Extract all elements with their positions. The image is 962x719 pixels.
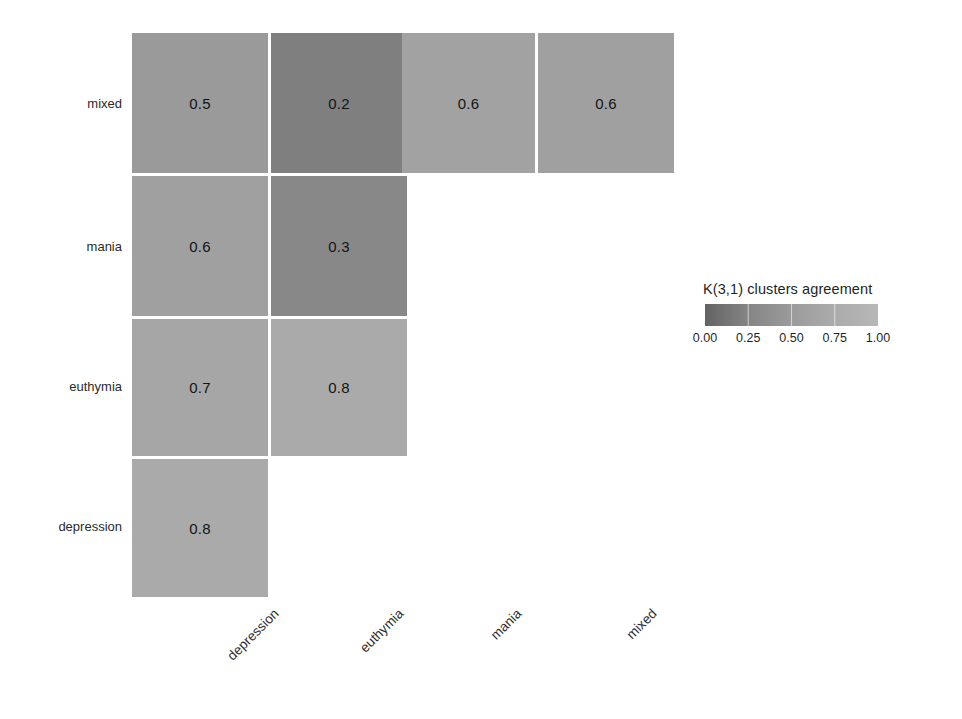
heatmap-cell: 0.2 — [271, 33, 407, 173]
y-axis-tick-depression: depression — [0, 519, 122, 534]
x-axis-tick-mixed: mixed — [624, 606, 660, 642]
legend-title: K(3,1) clusters agreement — [703, 281, 876, 297]
heatmap-cell-value: 0.6 — [189, 238, 210, 255]
x-axis-tick-label: mania — [488, 606, 525, 643]
legend: K(3,1) clusters agreement — [703, 281, 876, 347]
y-axis-tick-label: depression — [58, 519, 122, 534]
heatmap-cell-value: 0.5 — [189, 95, 210, 112]
heatmap-cell: 0.6 — [132, 176, 268, 316]
y-axis-tick-mania: mania — [0, 239, 122, 254]
y-axis-tick-label: euthymia — [69, 379, 122, 394]
heatmap-cell: 0.6 — [402, 33, 535, 173]
colorbar-tick-label: 0.50 — [779, 331, 803, 345]
y-axis-tick-euthymia: euthymia — [0, 379, 122, 394]
colorbar-tick-labels: 0.00 0.25 0.50 0.75 1.00 — [705, 331, 878, 347]
colorbar-tick-label: 1.00 — [866, 331, 890, 345]
colorbar — [705, 304, 878, 326]
heatmap-cell-value: 0.2 — [328, 95, 349, 112]
heatmap-cell: 0.8 — [271, 319, 407, 456]
heatmap-chart: mixed mania euthymia depression 0.5 0.2 … — [0, 0, 962, 719]
heatmap-cell-value: 0.8 — [328, 379, 349, 396]
heatmap-cell-value: 0.7 — [189, 379, 210, 396]
heatmap-cell: 0.3 — [271, 176, 407, 316]
colorbar-tick-label: 0.00 — [693, 331, 717, 345]
x-axis-tick-depression: depression — [224, 606, 281, 663]
heatmap-cell-value: 0.6 — [595, 95, 616, 112]
colorbar-gradient — [705, 304, 878, 326]
heatmap-cell: 0.8 — [132, 459, 268, 597]
heatmap-cell: 0.6 — [538, 33, 674, 173]
heatmap-cell-value: 0.6 — [458, 95, 479, 112]
heatmap-cell: 0.7 — [132, 319, 268, 456]
x-axis-tick-label: euthymia — [357, 606, 406, 655]
y-axis-tick-mixed: mixed — [0, 96, 122, 111]
heatmap-cell: 0.5 — [132, 33, 268, 173]
x-axis-tick-mania: mania — [488, 606, 525, 643]
x-axis-tick-label: depression — [224, 606, 281, 663]
colorbar-tick-label: 0.25 — [736, 331, 760, 345]
colorbar-tick-label: 0.75 — [823, 331, 847, 345]
x-axis-tick-label: mixed — [624, 606, 660, 642]
y-axis-tick-label: mania — [87, 239, 122, 254]
y-axis-tick-label: mixed — [87, 96, 122, 111]
heatmap-cell-value: 0.3 — [328, 238, 349, 255]
x-axis-tick-euthymia: euthymia — [357, 606, 406, 655]
heatmap-panel: 0.5 0.2 0.6 0.6 0.6 0.3 0.7 0.8 0.8 — [132, 33, 674, 597]
heatmap-cell-value: 0.8 — [189, 520, 210, 537]
